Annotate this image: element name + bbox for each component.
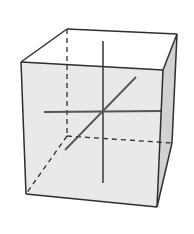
front-face [21,62,163,207]
cube-svg [0,0,194,234]
cube-diagram [0,0,194,234]
